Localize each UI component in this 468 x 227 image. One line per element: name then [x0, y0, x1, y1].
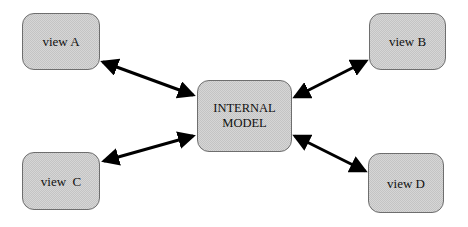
view-d-node: view D: [368, 153, 444, 213]
arrow-a-model: [103, 62, 193, 95]
view-b-label: view B: [389, 34, 426, 49]
internal-model-node: INTERNAL MODEL: [197, 80, 292, 152]
view-b-node: view B: [369, 13, 446, 70]
arrow-d-model: [295, 136, 365, 171]
view-c-node: view C: [22, 152, 100, 210]
arrow-c-model: [104, 136, 193, 161]
view-a-node: view A: [22, 13, 100, 70]
internal-model-label-line1: INTERNAL: [213, 101, 276, 116]
view-a-label: view A: [42, 34, 79, 49]
diagram-canvas: view A view B view C view D INTERNAL MOD…: [0, 0, 468, 227]
arrow-b-model: [295, 61, 366, 97]
internal-model-label-line2: MODEL: [222, 116, 266, 131]
view-c-label: view C: [41, 174, 81, 189]
view-d-label: view D: [387, 176, 425, 191]
